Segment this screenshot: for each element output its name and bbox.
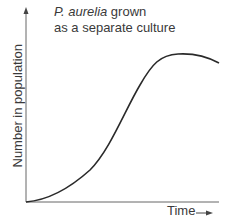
population-curve [26,54,219,202]
y-axis-label: Number in population [10,38,25,168]
y-axis-arrow-icon [24,7,29,14]
chart-canvas [0,0,230,223]
x-axis-label: Time [167,203,195,218]
x-axis-arrow-icon [206,211,213,216]
